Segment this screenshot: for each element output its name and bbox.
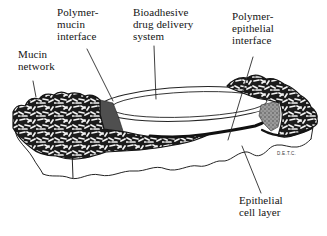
label-line: interface [232,34,274,46]
leader-epithelial-cell-layer [242,146,261,193]
label-line: Epithelial [239,194,283,206]
label-epithelial-cell-layer: Epithelial cell layer [239,194,283,218]
label-mucin-network: Mucin network [18,48,55,72]
label-line: Bioadhesive [133,6,193,18]
label-line: interface [57,30,99,42]
label-line: mucin [57,18,99,30]
label-line: system [133,30,193,42]
label-bioadhesive-system: Bioadhesive drug delivery system [133,6,193,42]
label-line: drug delivery [133,18,193,30]
label-line: Polymer- [57,6,99,18]
label-line: network [18,60,55,72]
label-line: Polymer- [232,10,274,22]
label-polymer-epithelial-interface: Polymer- epithelial interface [232,10,274,46]
label-line: Mucin [18,48,55,60]
label-line: cell layer [239,206,283,218]
interface-polymer-epithelial [259,101,280,131]
label-line: epithelial [232,22,274,34]
leader-mucin-network [33,81,36,97]
leader-polymer-mucin [87,49,113,101]
diagram-canvas: Polymer- mucin interface Bioadhesive dru… [0,0,327,236]
artist-initials: D.E.T.C. [277,151,296,156]
label-polymer-mucin-interface: Polymer- mucin interface [57,6,99,42]
